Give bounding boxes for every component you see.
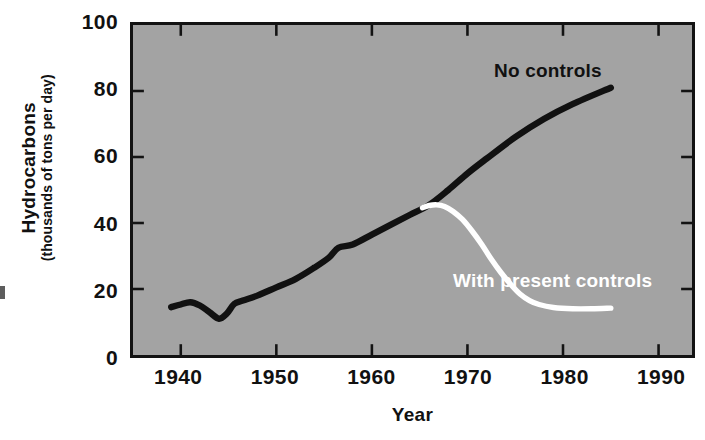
y-tick-label: 100 (56, 11, 118, 32)
y-tick-label: 60 (56, 145, 118, 166)
y-axis-title-sub: (thousands of tons per day) (40, 53, 55, 283)
x-axis-title: Year (130, 404, 695, 426)
scan-artifact-speck (0, 286, 5, 299)
x-tick-label: 1940 (138, 366, 218, 387)
series-line-with-present-controls (423, 205, 611, 309)
x-tick-label: 1960 (331, 366, 411, 387)
x-tick-label: 1990 (621, 366, 701, 387)
y-axis-title: Hydrocarbons (thousands of tons per day) (19, 53, 55, 283)
y-tick-label: 80 (56, 78, 118, 99)
x-tick-label: 1970 (428, 366, 508, 387)
y-tick-label: 0 (56, 347, 118, 368)
y-tick-label: 40 (56, 213, 118, 234)
y-axis-title-main: Hydrocarbons (19, 53, 39, 283)
x-tick-label-group: 194019501960197019801990 (0, 366, 705, 396)
tick-marks-group (133, 25, 692, 355)
series-label-with-present-controls: With present controls (453, 270, 652, 292)
plot-area (130, 22, 695, 358)
x-tick-label: 1980 (525, 366, 605, 387)
series-label-no-controls: No controls (494, 60, 602, 82)
chart-figure: Hydrocarbons (thousands of tons per day)… (0, 0, 705, 440)
x-tick-label: 1950 (235, 366, 315, 387)
plot-canvas (133, 25, 692, 355)
y-tick-label: 20 (56, 280, 118, 301)
